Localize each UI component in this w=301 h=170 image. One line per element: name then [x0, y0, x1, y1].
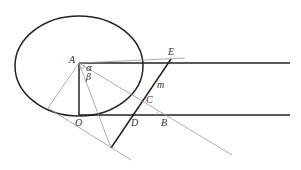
label-d: D — [130, 117, 139, 128]
line-a-lower-vertex — [79, 63, 111, 148]
label-o: O — [75, 117, 82, 128]
label-b: B — [161, 117, 167, 128]
label-c: C — [146, 94, 153, 105]
line-m — [111, 59, 171, 148]
label-a: A — [68, 54, 76, 65]
line-a-ellipse-left — [48, 63, 79, 108]
geometry-diagram: A E α β m C O D B — [0, 0, 301, 170]
ray-a-b — [79, 63, 232, 155]
label-beta: β — [85, 72, 91, 82]
label-m: m — [157, 79, 164, 90]
label-e: E — [167, 46, 174, 57]
